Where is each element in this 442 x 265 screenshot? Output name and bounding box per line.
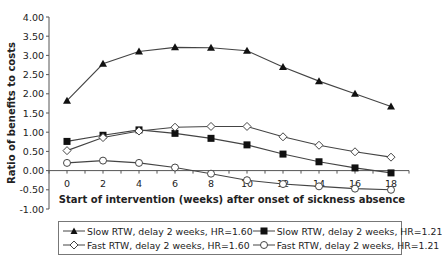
line-chart: 4.003.503.002.502.001.501.000.500.00-0.5…	[0, 0, 418, 222]
data-point	[387, 153, 395, 161]
data-point	[172, 164, 179, 171]
y-tick-label: 2.50	[23, 69, 44, 80]
y-tick-label: 3.00	[23, 50, 44, 61]
y-tick-label: 0.00	[23, 165, 44, 176]
data-point	[64, 138, 71, 145]
data-point	[388, 186, 395, 193]
legend-item-slow-hr121: Slow RTW, delay 2 weeks, HR=1.21	[253, 225, 442, 237]
diamond-icon	[63, 240, 85, 250]
legend-label: Fast RTW, delay 2 weeks, HR=1.21	[277, 240, 440, 251]
data-point	[244, 177, 251, 184]
x-tick-label: 0	[64, 178, 70, 189]
y-tick-label: 1.50	[23, 108, 44, 119]
x-axis-title: Start of intervention (weeks) after onse…	[59, 194, 405, 205]
y-tick-label: -0.50	[19, 184, 44, 195]
square-icon	[253, 226, 275, 236]
data-point	[315, 141, 323, 149]
circle-icon	[253, 240, 275, 250]
series-circle-open	[64, 157, 395, 193]
legend-label: Slow RTW, delay 2 weeks, HR=1.21	[277, 226, 442, 237]
data-point	[63, 147, 71, 155]
legend-item-slow-hr160: Slow RTW, delay 2 weeks, HR=1.60	[63, 225, 253, 237]
data-point	[280, 151, 287, 158]
triangle-icon	[63, 226, 85, 236]
legend-label: Fast RTW, delay 2 weeks, HR=1.60	[87, 240, 250, 251]
data-point	[279, 133, 287, 141]
data-point	[280, 181, 287, 188]
data-point	[315, 77, 323, 84]
series-square-filled	[64, 126, 395, 176]
data-point	[279, 63, 287, 70]
data-point	[243, 122, 251, 130]
y-tick-label: 3.50	[23, 31, 44, 42]
data-point	[208, 135, 215, 142]
legend-label: Slow RTW, delay 2 weeks, HR=1.60	[87, 226, 253, 237]
chart-legend: Slow RTW, delay 2 weeks, HR=1.60 Slow RT…	[58, 221, 402, 255]
data-point	[352, 164, 359, 171]
data-point	[388, 169, 395, 176]
y-tick-label: 4.00	[23, 12, 44, 23]
legend-item-fast-hr121: Fast RTW, delay 2 weeks, HR=1.21	[253, 239, 442, 251]
y-tick-label: -1.00	[19, 204, 44, 215]
y-tick-label: 1.00	[23, 127, 44, 138]
series-triangle-filled	[63, 43, 395, 109]
data-point	[316, 183, 323, 190]
x-tick-label: 4	[136, 178, 142, 189]
data-point	[208, 170, 215, 177]
data-point	[244, 141, 251, 148]
x-tick-label: 2	[100, 178, 106, 189]
legend-item-fast-hr160: Fast RTW, delay 2 weeks, HR=1.60	[63, 239, 253, 251]
data-point	[351, 148, 359, 156]
data-point	[64, 159, 71, 166]
y-axis-title: Ratio of benefits to costs	[6, 42, 17, 184]
y-tick-label: 0.50	[23, 146, 44, 157]
y-axis: 4.003.503.002.502.001.501.000.500.00-0.5…	[19, 12, 49, 215]
data-point	[207, 122, 215, 130]
x-tick-label: 8	[208, 178, 214, 189]
data-point	[316, 158, 323, 165]
data-point	[352, 185, 359, 192]
x-tick-label: 6	[172, 178, 178, 189]
data-point	[100, 157, 107, 164]
data-point	[136, 159, 143, 166]
y-tick-label: 2.00	[23, 88, 44, 99]
